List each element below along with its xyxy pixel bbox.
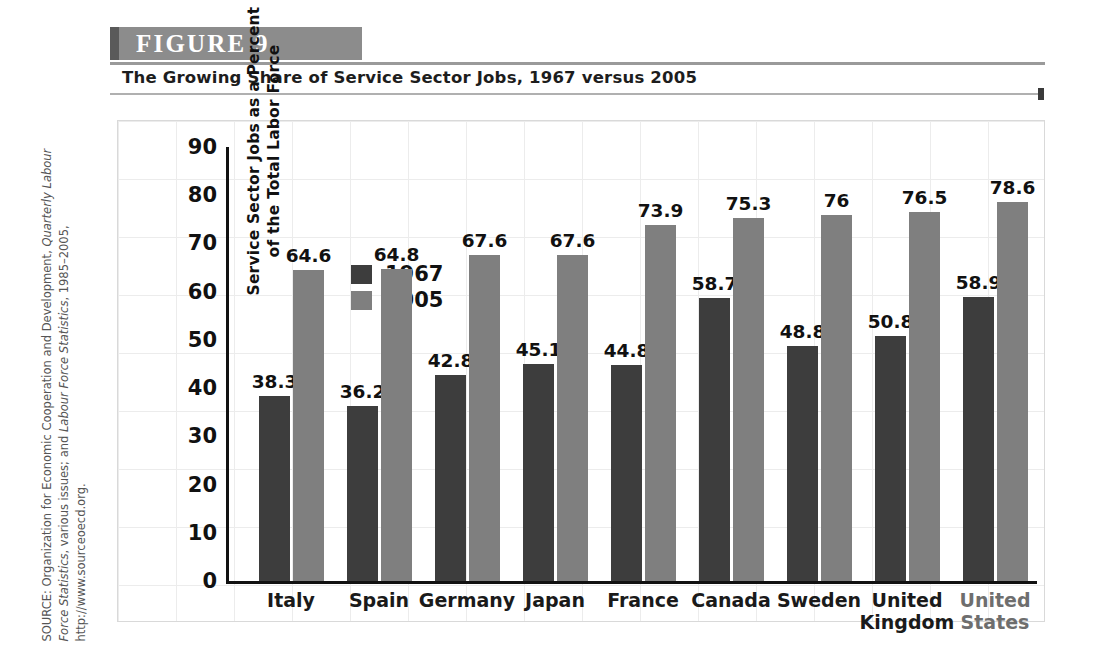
bar-value-label: 44.8 xyxy=(604,340,650,361)
category-label-line: States xyxy=(929,611,1061,633)
bar-1967: 38.3 xyxy=(259,396,290,581)
y-tick-label: 0 xyxy=(202,569,217,593)
figure-caption: The Growing Share of Service Sector Jobs… xyxy=(122,68,697,87)
bar-2005: 73.9 xyxy=(645,225,676,581)
y-tick-label: 40 xyxy=(188,376,217,400)
bar-1967: 48.8 xyxy=(787,346,818,581)
y-tick-label: 30 xyxy=(188,424,217,448)
y-tick-label: 70 xyxy=(188,231,217,255)
bar-value-label: 73.9 xyxy=(638,200,684,221)
bar-1967: 44.8 xyxy=(611,365,642,581)
y-tick-label: 20 xyxy=(188,473,217,497)
source-note-prefix: SOURCE: Organization for Economic Cooper… xyxy=(40,247,54,642)
y-tick-label: 80 xyxy=(188,183,217,207)
bar-value-label: 50.8 xyxy=(868,311,914,332)
bar-1967: 45.1 xyxy=(523,364,554,581)
bar-1967: 50.8 xyxy=(875,336,906,581)
figure-rule-endcap-marker xyxy=(1038,88,1044,100)
bar-2005: 67.6 xyxy=(557,255,588,581)
y-tick-label: 50 xyxy=(188,328,217,352)
bar-2005: 78.6 xyxy=(997,202,1028,581)
bar-2005: 75.3 xyxy=(733,218,764,581)
chart-panel: Service Sector Jobs as a Percent of the … xyxy=(117,120,1045,622)
bar-value-label: 64.8 xyxy=(374,244,420,265)
bar-value-label: 67.6 xyxy=(462,230,508,251)
y-tick-label: 60 xyxy=(188,280,217,304)
bar-value-label: 42.8 xyxy=(428,350,474,371)
bar-2005: 76 xyxy=(821,215,852,581)
y-tick-label: 90 xyxy=(188,135,217,159)
bar-value-label: 76 xyxy=(824,190,850,211)
bar-1967: 58.7 xyxy=(699,298,730,581)
y-axis-line xyxy=(226,147,229,581)
bar-value-label: 58.7 xyxy=(692,273,738,294)
bar-2005: 64.8 xyxy=(381,269,412,581)
bar-1967: 36.2 xyxy=(347,406,378,581)
x-axis-line xyxy=(226,581,1037,584)
plot-area: 0102030405060708090 38.364.6Italy36.264.… xyxy=(226,147,1040,581)
bar-2005: 76.5 xyxy=(909,212,940,581)
figure-header-bar: FIGURE 9 xyxy=(110,27,362,60)
category-label: UnitedStates xyxy=(929,589,1061,633)
bar-value-label: 75.3 xyxy=(726,193,772,214)
bar-value-label: 67.6 xyxy=(550,230,596,251)
bar-2005: 67.6 xyxy=(469,255,500,581)
category-label-line: United xyxy=(929,589,1061,611)
bar-value-label: 78.6 xyxy=(990,177,1036,198)
source-note-italic-2: Labour Force Statistics xyxy=(57,301,71,432)
bar-2005: 64.6 xyxy=(293,270,324,582)
source-note-mid: , various issues; and xyxy=(57,432,71,553)
y-tick-label: 10 xyxy=(188,521,217,545)
bar-value-label: 36.2 xyxy=(340,381,386,402)
bar-value-label: 48.8 xyxy=(780,321,826,342)
bar-value-label: 38.3 xyxy=(252,371,298,392)
bar-value-label: 64.6 xyxy=(286,245,332,266)
source-note: SOURCE: Organization for Economic Cooper… xyxy=(39,122,90,642)
bar-value-label: 58.9 xyxy=(956,272,1002,293)
bar-1967: 58.9 xyxy=(963,297,994,581)
bar-value-label: 76.5 xyxy=(902,187,948,208)
bar-1967: 42.8 xyxy=(435,375,466,581)
bar-value-label: 45.1 xyxy=(516,339,562,360)
